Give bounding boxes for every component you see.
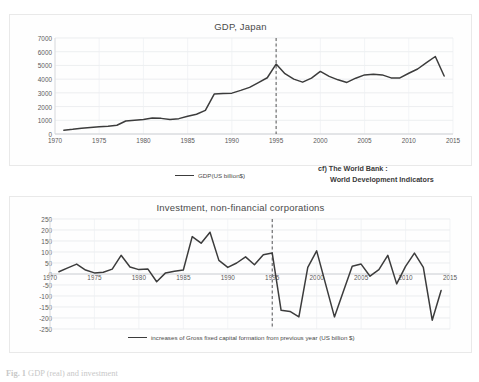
y-axis-tick-label: 1000 [38,117,52,124]
x-axis-tick-label: 2000 [313,137,327,144]
figure-page: GDP, Japan 01000200030004000500060007000… [0,0,479,382]
x-axis-tick-label: 1990 [225,137,239,144]
x-axis-tick-label: 2015 [446,137,460,144]
investment-legend-label: increases of Gross fixed capital formati… [151,334,355,341]
x-axis-tick-label: 1985 [181,137,195,144]
investment-chart: Investment, non-financial corporations 2… [9,196,472,353]
gdp-chart: GDP, Japan 01000200030004000500060007000… [9,14,472,166]
gdp-plot-area [55,38,453,134]
x-axis-tick-label: 1995 [269,137,283,144]
x-axis-tick-label: 1970 [48,137,62,144]
gdp-line-svg [55,38,453,134]
y-axis-tick-label: 3000 [38,89,52,96]
figure-caption-text: GDP (real) and investment [28,369,118,378]
figure-caption-number: Fig. 1 [6,369,26,378]
y-axis-tick-label: 5000 [38,62,52,69]
data-series-line [64,57,444,131]
x-axis-tick-label: 2005 [357,137,371,144]
investment-line-svg [50,219,450,329]
gdp-y-axis-labels: 01000200030004000500060007000 [10,38,52,134]
investment-chart-title: Investment, non-financial corporations [10,202,471,213]
source-line-2: World Development Indicators [318,174,434,185]
gdp-legend: GDP(US billion$) [175,172,245,179]
investment-legend: increases of Gross fixed capital formati… [128,334,355,341]
y-axis-tick-label: 7000 [38,35,52,42]
figure-caption: Fig. 1 GDP (real) and investment [6,369,118,378]
y-axis-tick-label: 6000 [38,48,52,55]
x-axis-tick-label: 2010 [402,137,416,144]
gdp-x-axis-labels: 1970197519801985199019952000200520102015 [55,137,453,149]
source-citation: cf) The World Bank : World Development I… [318,163,434,185]
gdp-legend-line-icon [175,175,194,176]
gdp-legend-label: GDP(US billion$) [198,172,245,179]
source-line-1: cf) The World Bank : [318,164,388,173]
y-axis-tick-label: 2000 [38,103,52,110]
x-axis-tick-label: 1975 [92,137,106,144]
gdp-chart-title: GDP, Japan [10,21,471,32]
x-axis-tick-label: 1980 [136,137,150,144]
investment-plot-area [50,219,450,329]
investment-legend-line-icon [128,337,147,338]
y-axis-tick-label: 4000 [38,76,52,83]
